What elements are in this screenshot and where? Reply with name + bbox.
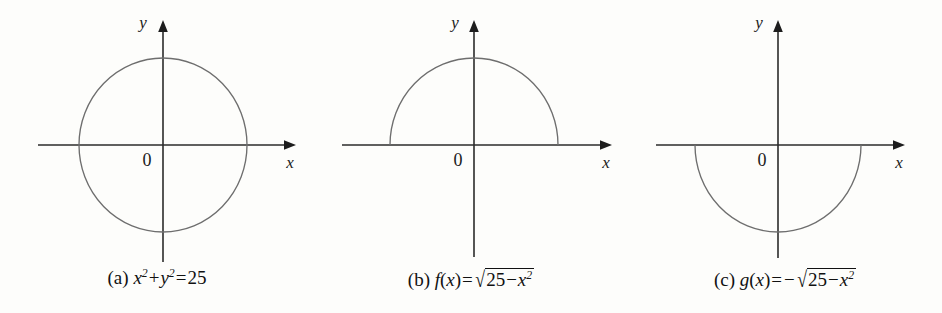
- eq-c-equals: =: [770, 269, 783, 290]
- panel-a: y x 0 x(a) x2+y2=25: [0, 0, 314, 313]
- eq-b-radicand-exp: 2: [526, 269, 532, 282]
- caption-a: x(a) x2+y2=25: [0, 268, 314, 287]
- eq-c-radicand-exp: 2: [848, 269, 854, 282]
- eq-a-operator: +: [148, 267, 161, 288]
- eq-a-exp1: 2: [142, 267, 148, 280]
- eq-c-radicand: 25−x2: [807, 268, 856, 289]
- eq-a-var1: x: [133, 267, 141, 288]
- eq-b-equals: =: [461, 269, 474, 290]
- panel-label-b: (b): [408, 269, 430, 290]
- panel-label-a: (a): [108, 267, 129, 288]
- eq-c-radical-sign: √: [797, 269, 807, 291]
- x-axis-label-a: x: [285, 153, 294, 172]
- caption-b: (b) f(x)=√25−x2: [314, 268, 628, 290]
- eq-b-radical-sign: √: [475, 269, 485, 291]
- eq-c-radicand-number: 25: [808, 269, 827, 290]
- y-axis-arrowhead-a: [158, 20, 168, 32]
- y-axis-label-b: y: [449, 13, 459, 32]
- panel-b: y x 0 (b) f(x)=√25−x2: [314, 0, 628, 313]
- eq-c-radical: √25−x2: [796, 268, 856, 290]
- origin-label-a: 0: [143, 150, 152, 170]
- eq-c-minus-sign: −: [783, 269, 796, 290]
- y-axis-label-a: y: [137, 13, 147, 32]
- eq-c-fname: g: [740, 269, 750, 290]
- x-axis-label-b: x: [601, 153, 610, 172]
- eq-c-arg: x: [756, 269, 764, 290]
- panel-label-c: (c): [714, 269, 735, 290]
- figure-root: y x 0 x(a) x2+y2=25 y x 0 (b) f(x)=√25−x…: [0, 0, 942, 313]
- origin-label-c: 0: [758, 150, 767, 170]
- eq-a-equals: =: [175, 267, 188, 288]
- x-axis-arrowhead-a: [284, 140, 296, 150]
- eq-b-radicand-operator: −: [505, 269, 518, 290]
- y-axis-arrowhead-c: [773, 20, 783, 32]
- caption-c: (c) g(x)=−√25−x2: [628, 268, 942, 290]
- panel-c: y x 0 (c) g(x)=−√25−x2: [628, 0, 942, 313]
- eq-c-radicand-var: x: [840, 269, 848, 290]
- eq-a-rhs: 25: [187, 267, 206, 288]
- eq-c-radicand-operator: −: [827, 269, 840, 290]
- eq-a-exp2: 2: [169, 267, 175, 280]
- graph-c: y x 0: [628, 0, 942, 270]
- y-axis-label-c: y: [753, 13, 763, 32]
- graph-a: y x 0: [0, 0, 314, 270]
- eq-b-radicand-number: 25: [486, 269, 505, 290]
- eq-b-radical: √25−x2: [474, 268, 534, 290]
- graph-b: y x 0: [314, 0, 628, 270]
- origin-label-b: 0: [454, 150, 463, 170]
- x-axis-label-c: x: [894, 153, 903, 172]
- eq-b-radicand: 25−x2: [485, 268, 534, 289]
- x-axis-arrowhead-c: [893, 140, 905, 150]
- eq-b-arg: x: [446, 269, 454, 290]
- y-axis-arrowhead-b: [469, 20, 479, 32]
- eq-a-var2: y: [160, 267, 168, 288]
- x-axis-arrowhead-b: [600, 140, 612, 150]
